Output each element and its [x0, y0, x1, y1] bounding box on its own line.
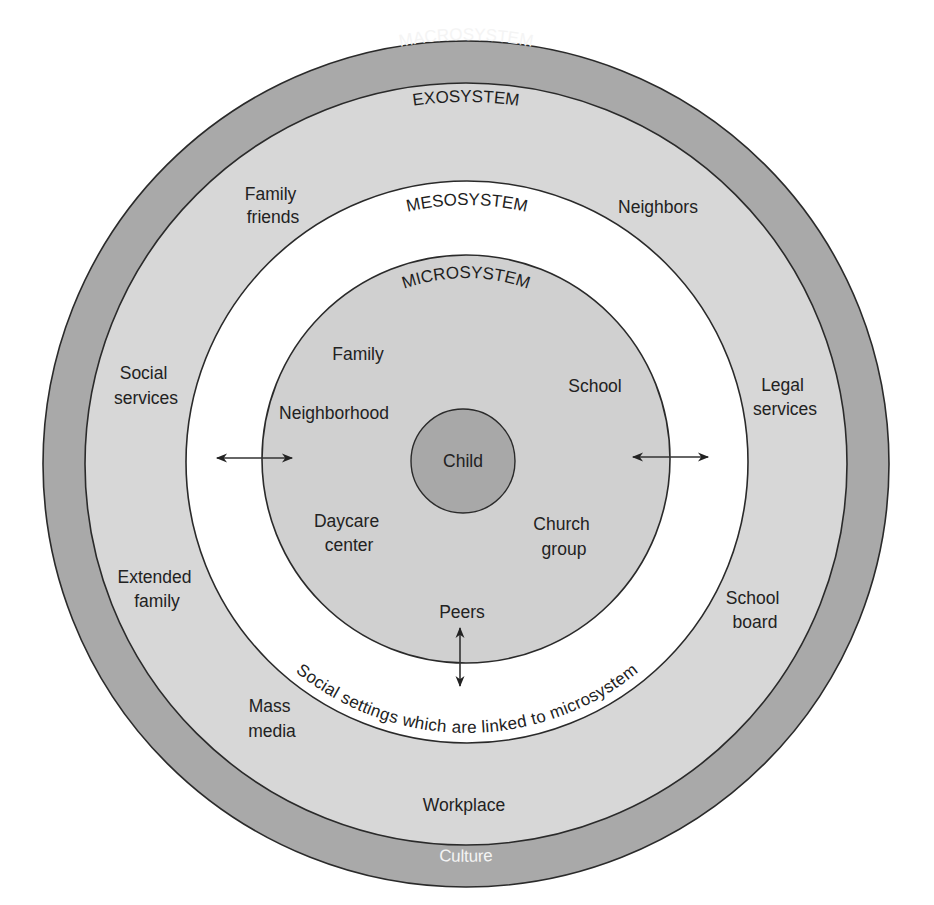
micro-item-neighborhood: Neighborhood: [279, 403, 389, 423]
micro-item-peers: Peers: [439, 602, 485, 622]
exo-item-neighbors: Neighbors: [618, 197, 698, 217]
micro-item-school: School: [568, 376, 622, 396]
child-label: Child: [443, 451, 483, 471]
culture-label: Culture: [439, 846, 494, 866]
ecological-systems-diagram: MACROSYSTEM Culture EXOSYSTEM MESOSYSTEM…: [0, 0, 934, 905]
micro-item-family: Family: [332, 344, 384, 364]
exo-item-workplace: Workplace: [423, 795, 505, 815]
